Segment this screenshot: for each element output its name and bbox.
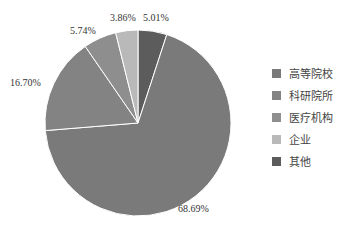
label-qiye: 3.86% [110, 12, 136, 23]
label-qita: 5.01% [143, 12, 169, 23]
label-gaodeng: 68.69% [178, 203, 209, 214]
swatch-icon [272, 69, 281, 78]
swatch-icon [272, 135, 281, 144]
legend: 高等院校 科研院所 医疗机构 企业 其他 [272, 62, 333, 172]
swatch-icon [272, 157, 281, 166]
label-keyan: 16.70% [10, 77, 41, 88]
legend-item-gaodeng: 高等院校 [272, 62, 333, 84]
legend-item-keyan: 科研院所 [272, 84, 333, 106]
swatch-icon [272, 91, 281, 100]
legend-item-qita: 其他 [272, 150, 333, 172]
legend-item-yiliao: 医疗机构 [272, 106, 333, 128]
swatch-icon [272, 113, 281, 122]
legend-item-qiye: 企业 [272, 128, 333, 150]
label-yiliao: 5.74% [70, 25, 96, 36]
